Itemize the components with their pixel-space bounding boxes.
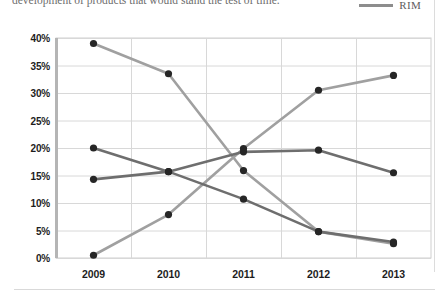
legend-item-label: RIM <box>399 0 421 11</box>
x-axis-tick-label: 2010 <box>157 268 180 280</box>
x-axis: 20092010201120122013 <box>56 268 431 288</box>
x-axis-tick-label: 2009 <box>82 268 105 280</box>
x-axis-tick-label: 2013 <box>382 268 405 280</box>
y-axis: 0%5%10%15%20%25%30%35%40% <box>14 26 50 288</box>
plot-area <box>0 26 435 288</box>
x-axis-tick-label: 2012 <box>307 268 330 280</box>
line-swatch-icon <box>359 4 393 7</box>
y-axis-tick-label: 35% <box>31 60 50 71</box>
y-axis-tick-label: 0% <box>36 253 50 264</box>
y-axis-tick-label: 20% <box>31 143 50 154</box>
chart-legend: RIM <box>359 0 421 11</box>
y-axis-tick-label: 30% <box>31 88 50 99</box>
y-axis-tick-label: 25% <box>31 115 50 126</box>
y-axis-tick-label: 15% <box>31 170 50 181</box>
y-axis-tick-label: 40% <box>31 33 50 44</box>
body-text: development of products that would stand… <box>12 0 342 7</box>
page-rule-bottom <box>14 289 435 290</box>
y-axis-tick-label: 5% <box>36 225 50 236</box>
x-axis-tick-label: 2011 <box>232 268 254 280</box>
y-axis-tick-label: 10% <box>31 198 50 209</box>
line-chart: 0%5%10%15%20%25%30%35%40% 20092010201120… <box>0 26 435 288</box>
